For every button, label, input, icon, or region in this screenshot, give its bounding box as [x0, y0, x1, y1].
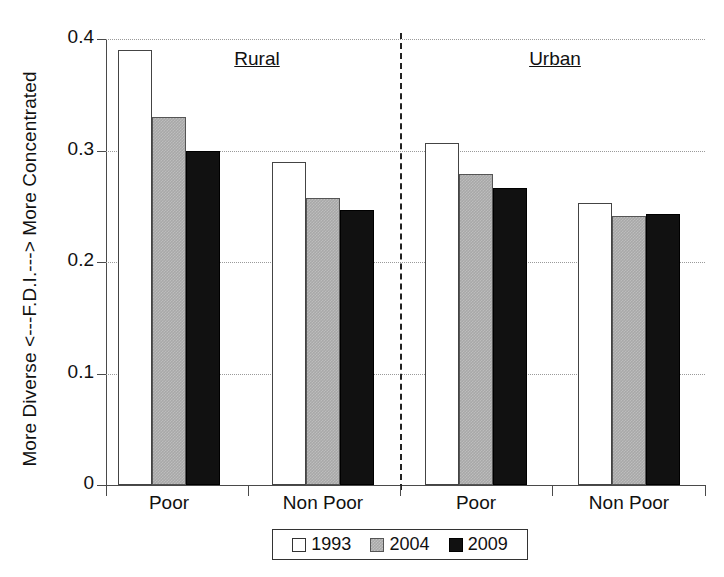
legend-swatch-2004	[370, 538, 384, 552]
chart-root: More Diverse <---F.D.I.---> More Concent…	[0, 0, 724, 577]
panel-header-urban: Urban	[495, 48, 615, 70]
legend-item-2004: 2004	[370, 534, 429, 555]
panel-header-rural: Rural	[197, 48, 317, 70]
bar-2009-group3	[493, 188, 527, 485]
bar-1993-group1	[118, 50, 152, 485]
legend-item-2009: 2009	[449, 534, 508, 555]
x-axis-label: Poor	[99, 492, 239, 514]
plot-area	[106, 39, 705, 485]
bar-2004-group3	[459, 174, 493, 485]
y-tick-mark	[97, 485, 106, 486]
x-tick-mark	[400, 486, 401, 496]
y-tick-mark	[97, 262, 106, 263]
legend-swatch-1993	[292, 538, 306, 552]
bar-2004-group4	[612, 216, 646, 485]
bar-2004-group2	[306, 198, 340, 485]
bar-2009-group1	[186, 151, 220, 486]
y-tick-mark	[97, 374, 106, 375]
panel-divider	[400, 33, 402, 490]
legend-item-1993: 1993	[292, 534, 351, 555]
y-tick-mark	[97, 39, 106, 40]
legend-swatch-2009	[449, 538, 463, 552]
y-tick-mark	[97, 151, 106, 152]
legend-label-2004: 2004	[389, 534, 429, 555]
legend-label-1993: 1993	[311, 534, 351, 555]
y-axis-title: More Diverse <---F.D.I.---> More Concent…	[19, 34, 41, 504]
x-tick-mark	[705, 486, 706, 496]
y-tick-label: 0.4	[44, 26, 94, 48]
legend-label-2009: 2009	[468, 534, 508, 555]
legend: 1993 2004 2009	[272, 529, 528, 560]
x-axis-line	[106, 485, 706, 486]
bar-2004-group1	[152, 117, 186, 485]
x-axis-label: Non Poor	[253, 492, 393, 514]
y-tick-label: 0.3	[44, 138, 94, 160]
gridline	[106, 39, 705, 40]
y-tick-label: 0	[44, 472, 94, 494]
x-tick-mark	[552, 486, 553, 496]
bar-2009-group2	[340, 210, 374, 485]
x-tick-mark	[248, 486, 249, 496]
y-tick-label: 0.2	[44, 249, 94, 271]
y-tick-label: 0.1	[44, 361, 94, 383]
bar-1993-group4	[578, 203, 612, 485]
x-axis-label: Poor	[406, 492, 546, 514]
bar-1993-group2	[272, 162, 306, 485]
bar-2009-group4	[646, 214, 680, 485]
x-axis-label: Non Poor	[559, 492, 699, 514]
bar-1993-group3	[425, 143, 459, 485]
